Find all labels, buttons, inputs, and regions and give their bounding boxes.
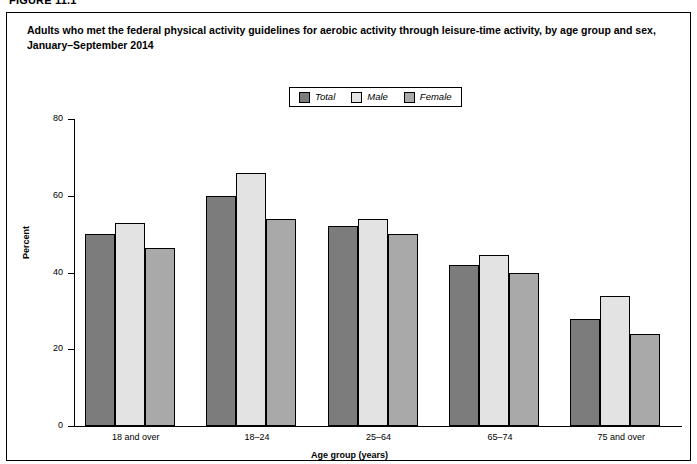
figure-container: FIGURE 11.1 Adults who met the federal p… (0, 0, 697, 464)
bar-female-0 (145, 248, 175, 426)
y-axis-tick (68, 349, 74, 350)
y-axis-tick-label: 40 (21, 268, 63, 277)
bar-total-1 (206, 196, 236, 426)
bar-female-1 (266, 219, 296, 426)
bar-group (570, 119, 660, 426)
figure-frame: Adults who met the federal physical acti… (6, 12, 691, 461)
y-axis-title: Percent (21, 226, 31, 259)
y-axis-tick-label: 0 (21, 421, 63, 430)
x-axis-label: 18 and over (112, 432, 160, 442)
figure-number: FIGURE 11.1 (9, 0, 77, 6)
bar-total-3 (449, 265, 479, 426)
x-axis-line (74, 426, 682, 427)
bar-male-4 (600, 296, 630, 426)
bar-total-2 (328, 226, 358, 426)
y-axis-tick-label: 60 (21, 191, 63, 200)
bar-group (328, 119, 418, 426)
bar-male-3 (479, 255, 509, 426)
bar-female-3 (509, 273, 539, 427)
y-axis-tick (68, 426, 74, 427)
x-axis-label: 18–24 (245, 432, 270, 442)
plot-area: Percent 020406080 18 and over18–2425–646… (7, 13, 692, 462)
bar-female-2 (388, 234, 418, 426)
bar-group (449, 119, 539, 426)
y-axis-tick (68, 273, 74, 274)
bar-male-1 (236, 173, 266, 426)
x-axis-title: Age group (years) (7, 450, 692, 460)
bar-group (85, 119, 175, 426)
y-axis-tick (68, 196, 74, 197)
y-axis-tick-label: 80 (21, 114, 63, 123)
bar-male-2 (358, 219, 388, 426)
x-axis-label: 25–64 (366, 432, 391, 442)
x-axis-label: 65–74 (487, 432, 512, 442)
y-axis-tick (68, 119, 74, 120)
bar-female-4 (630, 334, 660, 426)
bar-total-4 (570, 319, 600, 426)
x-axis-label: 75 and over (598, 432, 646, 442)
x-axis-tick-labels: 18 and over18–2425–6465–7475 and over (75, 432, 682, 448)
bar-group (206, 119, 296, 426)
bar-series-layer (75, 119, 682, 426)
y-axis-tick-label: 20 (21, 344, 63, 353)
bar-male-0 (115, 223, 145, 426)
bar-total-0 (85, 234, 115, 426)
